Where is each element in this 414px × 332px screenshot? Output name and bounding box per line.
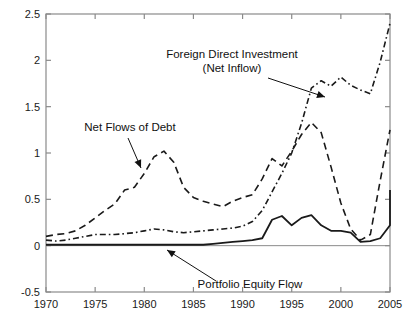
annotation-fdi-line2: (Net Inflow): [203, 62, 262, 74]
series-line-3: [46, 190, 390, 245]
x-axis-tick-label: 1990: [230, 298, 254, 310]
y-axis-tick-label: 2.5: [25, 8, 40, 20]
annotation-fdi-arrow: [268, 78, 325, 98]
series-line-1: [46, 122, 390, 240]
x-axis-tick-label: 1985: [181, 298, 205, 310]
y-axis-tick-label: 0: [34, 240, 40, 252]
x-axis-tick-label: 1970: [34, 298, 58, 310]
y-axis-tick-label: 2: [34, 54, 40, 66]
line-chart: -0.500.511.522.5197019751980198519901995…: [0, 0, 414, 332]
x-axis-tick-label: 2000: [329, 298, 353, 310]
y-axis-tick-label: 1: [34, 147, 40, 159]
x-axis-tick-label: 2005: [378, 298, 402, 310]
chart-figure: -0.500.511.522.5197019751980198519901995…: [0, 0, 414, 332]
annotation-debt-label: Net Flows of Debt: [84, 121, 176, 133]
x-axis-tick-label: 1980: [132, 298, 156, 310]
annotation-fdi-line1: Foreign Direct Investment: [166, 48, 298, 60]
y-axis-tick-label: 0.5: [25, 193, 40, 205]
x-axis-tick-label: 1975: [83, 298, 107, 310]
x-axis-tick-label: 1995: [279, 298, 303, 310]
annotation-debt-arrow: [128, 138, 141, 168]
y-axis-tick-label: -0.5: [21, 286, 40, 298]
y-axis-tick-label: 1.5: [25, 101, 40, 113]
annotation-portfolio-arrow: [167, 250, 216, 281]
